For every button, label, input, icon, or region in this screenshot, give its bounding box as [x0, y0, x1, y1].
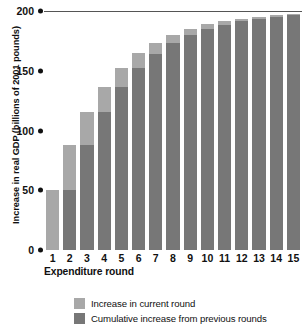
bar-segment-previous-5 — [115, 87, 128, 250]
chart-figure: Increase in real GDP (billions of 2001 p… — [0, 0, 307, 331]
y-tick-dot-100 — [38, 128, 43, 133]
bar-segment-previous-11 — [218, 25, 231, 250]
x-tick-label-12: 12 — [233, 252, 250, 264]
bar-round-7 — [149, 43, 162, 250]
x-tick-label-7: 7 — [147, 252, 164, 264]
bar-segment-current-5 — [115, 68, 128, 87]
y-tick-label-200: 200 — [4, 5, 34, 17]
x-tick-label-6: 6 — [130, 252, 147, 264]
x-tick-label-15: 15 — [285, 252, 302, 264]
bar-segment-previous-4 — [98, 112, 111, 250]
x-tick-label-13: 13 — [250, 252, 267, 264]
x-tick-label-5: 5 — [113, 252, 130, 264]
bar-segment-previous-8 — [166, 43, 179, 250]
legend-item-current: Increase in current round — [74, 296, 267, 311]
bar-segment-current-12 — [235, 19, 248, 22]
bar-segment-previous-9 — [184, 35, 197, 250]
legend-label-previous-rounds: Cumulative increase from previous rounds — [91, 313, 267, 324]
bar-segment-previous-13 — [252, 19, 265, 250]
y-tick-dot-50 — [38, 188, 43, 193]
bar-round-3 — [80, 112, 93, 250]
y-tick-label-100: 100 — [4, 125, 34, 137]
x-tick-label-4: 4 — [96, 252, 113, 264]
y-tick-dot-0 — [38, 248, 43, 253]
bar-round-4 — [98, 87, 111, 250]
bar-round-9 — [184, 29, 197, 250]
bar-segment-current-15 — [287, 14, 300, 15]
x-tick-label-8: 8 — [164, 252, 181, 264]
bar-segment-current-7 — [149, 43, 162, 54]
bar-round-12 — [235, 19, 248, 250]
x-tick-label-14: 14 — [268, 252, 285, 264]
bar-segment-previous-7 — [149, 54, 162, 250]
bar-round-8 — [166, 35, 179, 250]
legend-swatch-previous-rounds — [74, 313, 85, 324]
x-tick-label-11: 11 — [216, 252, 233, 264]
bar-segment-current-2 — [63, 145, 76, 190]
x-tick-label-10: 10 — [199, 252, 216, 264]
x-tick-label-3: 3 — [78, 252, 95, 264]
legend-swatch-current-round — [74, 298, 85, 309]
bar-segment-current-11 — [218, 21, 231, 24]
bar-segment-previous-10 — [201, 29, 214, 250]
bar-segment-current-3 — [80, 112, 93, 146]
bar-round-6 — [132, 53, 145, 250]
bar-segment-previous-3 — [80, 145, 93, 250]
gridline-200 — [44, 11, 302, 12]
y-tick-label-50: 50 — [4, 184, 34, 196]
bar-segment-previous-2 — [63, 190, 76, 250]
bar-round-2 — [63, 145, 76, 250]
bar-round-11 — [218, 21, 231, 250]
bar-segment-current-8 — [166, 35, 179, 43]
x-tick-label-1: 1 — [44, 252, 61, 264]
x-axis-title: Expenditure round — [44, 266, 244, 277]
bar-segment-current-1 — [46, 190, 59, 250]
y-tick-dot-200 — [38, 9, 43, 14]
bar-segment-current-10 — [201, 24, 214, 29]
bar-segment-current-9 — [184, 29, 197, 35]
y-tick-label-0: 0 — [4, 244, 34, 256]
bar-round-14 — [270, 15, 283, 250]
bar-segment-previous-15 — [287, 15, 300, 250]
bar-segment-current-13 — [252, 17, 265, 19]
y-tick-label-150: 150 — [4, 65, 34, 77]
bar-round-1 — [46, 190, 59, 250]
legend-label-current-round: Increase in current round — [91, 298, 195, 309]
bar-segment-current-14 — [270, 15, 283, 16]
legend-item-previous: Cumulative increase from previous rounds — [74, 311, 267, 326]
bar-segment-previous-14 — [270, 17, 283, 250]
bar-round-10 — [201, 24, 214, 250]
y-tick-dot-150 — [38, 68, 43, 73]
bar-segment-current-6 — [132, 53, 145, 67]
bar-segment-previous-12 — [235, 21, 248, 250]
plot-area — [44, 11, 302, 250]
bar-round-13 — [252, 17, 265, 250]
x-tick-label-9: 9 — [182, 252, 199, 264]
bar-round-5 — [115, 68, 128, 250]
bar-segment-current-4 — [98, 87, 111, 112]
x-tick-label-2: 2 — [61, 252, 78, 264]
bar-round-15 — [287, 14, 300, 250]
bar-segment-previous-6 — [132, 68, 145, 250]
chart-legend: Increase in current round Cumulative inc… — [74, 296, 267, 326]
